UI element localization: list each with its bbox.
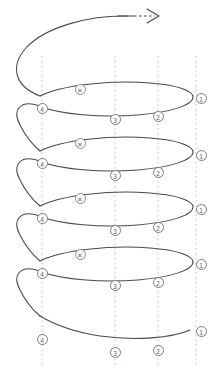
position-marker-4[interactable]: 4 bbox=[37, 268, 48, 279]
position-marker-4[interactable]: 4 bbox=[37, 334, 48, 345]
position-marker-1[interactable]: 1 bbox=[196, 326, 207, 337]
helix-turn-lead-in bbox=[17, 16, 128, 96]
position-marker-3[interactable]: 3 bbox=[110, 280, 121, 291]
position-marker-4[interactable]: 4 bbox=[37, 158, 48, 169]
helix-turn-4 bbox=[17, 247, 193, 316]
helix-turn-1 bbox=[17, 82, 193, 151]
position-marker-2[interactable]: 2 bbox=[153, 167, 164, 178]
position-marker-3[interactable]: 3 bbox=[110, 347, 121, 358]
position-marker-1[interactable]: 1 bbox=[196, 204, 207, 215]
helix-diagram: ✕1432✕1432✕1432✕14321432 bbox=[0, 0, 215, 373]
position-marker-1[interactable]: 1 bbox=[196, 150, 207, 161]
winding-direction-arrow bbox=[118, 9, 159, 23]
helix-turn-3 bbox=[17, 192, 193, 261]
position-marker-3[interactable]: 3 bbox=[110, 114, 121, 125]
arrow-head-icon bbox=[147, 9, 159, 23]
position-marker-2[interactable]: 2 bbox=[153, 222, 164, 233]
position-marker-2[interactable]: 2 bbox=[153, 345, 164, 356]
position-marker-2[interactable]: 2 bbox=[153, 277, 164, 288]
helix-canvas bbox=[0, 0, 215, 373]
position-marker-3[interactable]: 3 bbox=[110, 170, 121, 181]
position-marker-2[interactable]: 2 bbox=[153, 111, 164, 122]
position-marker-3[interactable]: 3 bbox=[110, 225, 121, 236]
helix-turn-2 bbox=[17, 137, 193, 206]
position-marker-4[interactable]: 4 bbox=[37, 103, 48, 114]
position-marker-1[interactable]: 1 bbox=[196, 259, 207, 270]
guide-lines-group bbox=[42, 56, 196, 366]
crossing-point-marker[interactable]: ✕ bbox=[75, 249, 86, 260]
position-marker-4[interactable]: 4 bbox=[37, 213, 48, 224]
crossing-point-marker[interactable]: ✕ bbox=[75, 193, 86, 204]
crossing-point-marker[interactable]: ✕ bbox=[75, 84, 86, 95]
crossing-point-marker[interactable]: ✕ bbox=[75, 138, 86, 149]
helix-curve-group bbox=[17, 16, 193, 339]
position-marker-1[interactable]: 1 bbox=[196, 93, 207, 104]
